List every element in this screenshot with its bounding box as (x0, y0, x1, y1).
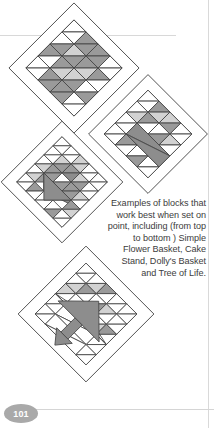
footer-rule (30, 409, 214, 410)
page-edge-rule (208, 0, 209, 428)
figure-caption: Examples of blocks that work best when s… (106, 198, 206, 279)
book-page: Examples of blocks that work best when s… (0, 0, 214, 428)
page-number: 101 (4, 404, 38, 423)
